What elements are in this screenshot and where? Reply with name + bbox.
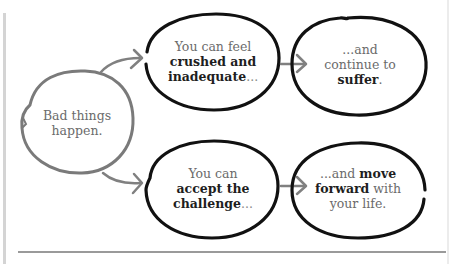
bottom-middle-bold-2: challenge <box>173 196 241 211</box>
top-right-node: ...and continue to suffer. <box>300 42 420 87</box>
top-right-line-2: continue to <box>300 57 420 72</box>
bottom-middle-bold-1: accept the <box>177 181 250 196</box>
bottom-middle-line-1: You can <box>153 166 273 181</box>
top-right-bold: suffer <box>338 72 379 87</box>
bottom-right-after: with <box>369 181 401 196</box>
start-line-1: Bad things <box>27 108 127 123</box>
top-middle-bold-2: inadequate <box>168 69 246 84</box>
bottom-right-line-3: your life. <box>298 196 418 211</box>
top-middle-suffix: ... <box>246 69 258 84</box>
arrow-start-to-bottom-icon <box>103 173 142 193</box>
bottom-middle-suffix: ... <box>241 196 253 211</box>
arrow-start-to-top-icon <box>101 50 142 72</box>
top-right-line-1: ...and <box>300 42 420 57</box>
top-middle-bold-1: crushed and <box>170 54 256 69</box>
top-right-suffix: . <box>378 72 382 87</box>
start-node: Bad things happen. <box>27 108 127 138</box>
bottom-right-bold-2: forward <box>315 181 370 196</box>
bottom-middle-node: You can accept the challenge... <box>153 166 273 211</box>
bottom-right-bold-1: move <box>359 166 396 181</box>
top-middle-line-1: You can feel <box>153 39 273 54</box>
top-middle-node: You can feel crushed and inadequate... <box>153 39 273 84</box>
start-line-2: happen. <box>27 123 127 138</box>
bottom-right-node: ...and move forward with your life. <box>298 166 418 211</box>
bottom-divider <box>18 251 446 253</box>
bottom-right-prefix: ...and <box>320 166 359 181</box>
